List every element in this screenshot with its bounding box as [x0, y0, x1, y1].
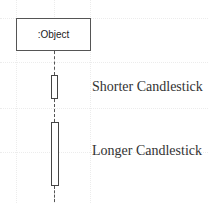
- grid-line: [0, 108, 208, 109]
- lifeline: [54, 99, 55, 122]
- short-activation-bar[interactable]: [51, 75, 58, 99]
- short-candlestick-label: Shorter Candlestick: [92, 79, 203, 95]
- grid-line: [0, 62, 208, 63]
- object-label: :Object: [38, 29, 70, 40]
- lifeline: [54, 51, 55, 75]
- object-box[interactable]: :Object: [16, 18, 91, 51]
- long-candlestick-label: Longer Candlestick: [92, 143, 202, 159]
- long-activation-bar[interactable]: [51, 122, 59, 186]
- lifeline: [54, 186, 55, 202]
